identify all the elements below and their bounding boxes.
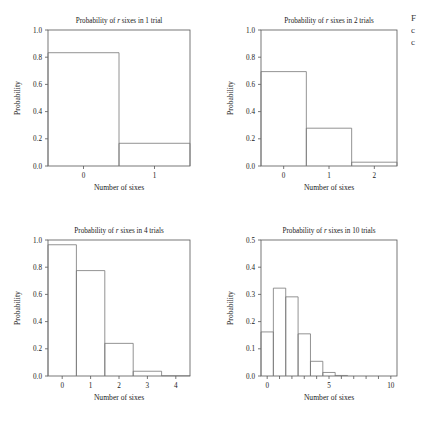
- histogram-bar: [119, 143, 190, 166]
- y-tick-label: 0.5: [246, 237, 255, 245]
- plot-frame: [261, 30, 397, 166]
- plot-frame: [261, 240, 397, 376]
- y-tick-label: 0.4: [246, 264, 255, 272]
- y-tick-label: 0.8: [33, 264, 42, 272]
- x-tick-label: 2: [373, 172, 377, 180]
- edge-text-line-2: c: [411, 24, 425, 36]
- y-tick-label: 0.6: [246, 81, 255, 89]
- edge-text-line-1: F: [411, 12, 425, 24]
- x-tick-label: 5: [327, 382, 331, 390]
- y-tick-label: 0.6: [33, 291, 42, 299]
- x-tick-label: 1: [327, 172, 331, 180]
- plot-frame: [48, 240, 190, 376]
- x-tick-label: 0: [282, 172, 286, 180]
- edge-text-line-3: c: [411, 36, 425, 48]
- x-tick-label: 1: [153, 172, 157, 180]
- histogram-bar: [306, 128, 351, 166]
- y-tick-label: 0.2: [246, 318, 255, 326]
- y-axis-label: Probability: [226, 81, 235, 115]
- y-axis-label: Probability: [226, 291, 235, 325]
- x-tick-label: 0: [82, 172, 86, 180]
- histogram-bar: [48, 245, 76, 376]
- x-axis-label: Number of sixes: [304, 393, 354, 402]
- x-tick-label: 10: [387, 382, 395, 390]
- chart-title: Probability of r sixes in 2 trials: [284, 17, 374, 25]
- y-tick-label: 0.8: [246, 54, 255, 62]
- y-tick-label: 1.0: [246, 27, 255, 35]
- histogram-bar: [310, 361, 322, 376]
- histogram-bar: [105, 343, 133, 376]
- y-axis-label: Probability: [13, 81, 22, 115]
- y-tick-label: 1.0: [33, 27, 42, 35]
- y-tick-label: 0.4: [246, 108, 255, 116]
- x-axis-label: Number of sixes: [304, 183, 354, 192]
- chart-panel-1-trial: Probability of r sixes in 1 trial0.00.20…: [4, 8, 204, 203]
- y-tick-label: 0.2: [246, 135, 255, 143]
- chart-panel-2-trials: Probability of r sixes in 2 trials0.00.2…: [221, 8, 411, 203]
- chart-title: Probability of r sixes in 4 trials: [74, 227, 164, 235]
- y-tick-label: 1.0: [33, 237, 42, 245]
- y-tick-label: 0.0: [246, 373, 255, 381]
- y-axis-label: Probability: [13, 291, 22, 325]
- histogram-bar: [298, 334, 310, 376]
- chart-title: Probability of r sixes in 1 trial: [76, 17, 163, 25]
- chart-panel-10-trials: Probability of r sixes in 10 trials0.00.…: [221, 212, 411, 412]
- y-tick-label: 0.3: [246, 291, 255, 299]
- x-tick-label: 3: [146, 382, 150, 390]
- histogram-bar: [261, 332, 273, 376]
- histogram-bar: [273, 288, 285, 376]
- histogram-bar: [48, 53, 119, 166]
- y-tick-label: 0.6: [33, 81, 42, 89]
- x-axis-label: Number of sixes: [94, 393, 144, 402]
- y-tick-label: 0.4: [33, 318, 42, 326]
- y-tick-label: 0.2: [33, 135, 42, 143]
- x-tick-label: 0: [60, 382, 64, 390]
- y-tick-label: 0.8: [33, 54, 42, 62]
- y-tick-label: 0.0: [33, 373, 42, 381]
- cropped-edge-text: F c c: [411, 12, 425, 48]
- x-tick-label: 0: [265, 382, 269, 390]
- y-tick-label: 0.4: [33, 108, 42, 116]
- y-tick-label: 0.1: [246, 345, 255, 353]
- histogram-bar: [76, 271, 104, 376]
- x-tick-label: 1: [89, 382, 93, 390]
- chart-panel-4-trials: Probability of r sixes in 4 trials0.00.2…: [4, 212, 204, 412]
- chart-title: Probability of r sixes in 10 trials: [282, 227, 375, 235]
- x-tick-label: 2: [117, 382, 121, 390]
- histogram-bar: [286, 297, 298, 376]
- x-axis-label: Number of sixes: [94, 183, 144, 192]
- histogram-bar: [261, 72, 306, 166]
- y-tick-label: 0.0: [246, 163, 255, 171]
- y-tick-label: 0.0: [33, 163, 42, 171]
- probability-histograms-figure: Probability of r sixes in 1 trial0.00.20…: [0, 0, 425, 422]
- y-tick-label: 0.2: [33, 345, 42, 353]
- histogram-bar: [352, 162, 397, 166]
- histogram-bar: [133, 371, 161, 376]
- x-tick-label: 4: [174, 382, 178, 390]
- histogram-bar: [323, 372, 335, 376]
